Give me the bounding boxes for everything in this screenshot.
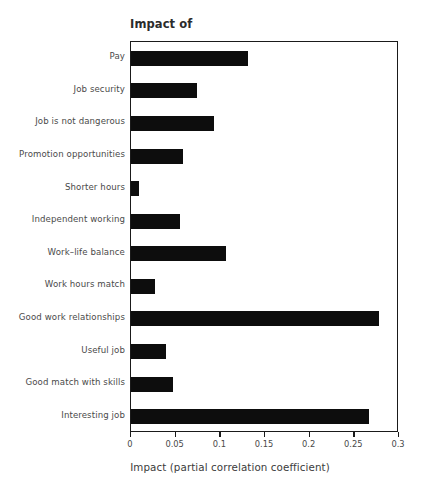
category-label: Good work relationships	[0, 312, 125, 322]
category-label: Good match with skills	[0, 377, 125, 387]
bars-layer	[131, 42, 397, 431]
x-tick-label: 0.1	[213, 439, 226, 449]
x-tick-mark	[353, 432, 354, 437]
x-tick-mark	[398, 432, 399, 437]
category-label: Job is not dangerous	[0, 116, 125, 126]
x-axis-title: Impact (partial correlation coefficient)	[0, 461, 426, 473]
bar	[131, 51, 248, 66]
category-label: Independent working	[0, 214, 125, 224]
x-tick-label: 0.2	[302, 439, 315, 449]
bar	[131, 344, 166, 359]
plot-area	[130, 41, 398, 432]
bar	[131, 181, 139, 196]
bar	[131, 246, 226, 261]
category-label: Work–life balance	[0, 247, 125, 257]
category-label: Pay	[0, 51, 125, 61]
category-label: Work hours match	[0, 279, 125, 289]
x-tick-label: 0.25	[344, 439, 362, 449]
bar	[131, 116, 214, 131]
x-tick-label: 0.05	[165, 439, 183, 449]
category-axis-labels: PayJob securityJob is not dangerousPromo…	[0, 41, 125, 432]
bar-chart-figure: Impact of PayJob securityJob is not dang…	[0, 0, 426, 489]
x-tick-label: 0.3	[391, 439, 404, 449]
category-label: Interesting job	[0, 410, 125, 420]
bar	[131, 377, 173, 392]
x-axis-ticks: 00.050.10.150.20.250.3	[130, 432, 398, 458]
bar	[131, 311, 379, 326]
x-tick-label: 0	[127, 439, 132, 449]
bar	[131, 409, 369, 424]
category-label: Useful job	[0, 345, 125, 355]
category-label: Promotion opportunities	[0, 149, 125, 159]
category-label: Shorter hours	[0, 182, 125, 192]
bar	[131, 279, 155, 294]
bar	[131, 83, 197, 98]
bar	[131, 214, 180, 229]
x-tick-label: 0.15	[255, 439, 273, 449]
category-label: Job security	[0, 84, 125, 94]
x-tick-mark	[219, 432, 220, 437]
bar	[131, 149, 183, 164]
x-tick-mark	[309, 432, 310, 437]
x-tick-mark	[130, 432, 131, 437]
chart-title: Impact of	[130, 17, 192, 31]
x-tick-mark	[264, 432, 265, 437]
x-tick-mark	[175, 432, 176, 437]
